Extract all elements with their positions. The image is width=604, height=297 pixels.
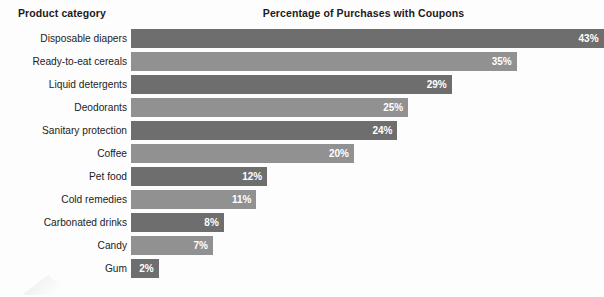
- chart-row: Liquid detergents29%: [0, 75, 604, 98]
- bar-track: 29%: [131, 75, 452, 94]
- category-label: Disposable diapers: [0, 29, 127, 48]
- bar-track: 7%: [131, 236, 213, 255]
- coupon-purchases-bar-chart: Product category Percentage of Purchases…: [0, 0, 604, 297]
- bar: 29%: [131, 75, 452, 94]
- category-label: Candy: [0, 236, 127, 255]
- bar-value-label: 12%: [242, 167, 262, 186]
- column-header-product-category: Product category: [18, 7, 106, 19]
- chart-row: Disposable diapers43%: [0, 29, 604, 52]
- bar-track: 24%: [131, 121, 397, 140]
- chart-header: Product category Percentage of Purchases…: [0, 7, 604, 27]
- bar-value-label: 11%: [232, 190, 251, 209]
- bar-track: 43%: [131, 29, 604, 48]
- bar-value-label: 43%: [579, 29, 599, 48]
- category-label: Carbonated drinks: [0, 213, 127, 232]
- bar-track: 25%: [131, 98, 408, 117]
- category-label: Deodorants: [0, 98, 127, 117]
- chart-row: Deodorants25%: [0, 98, 604, 121]
- bar-value-label: 2%: [139, 259, 153, 278]
- bar-value-label: 7%: [193, 236, 207, 255]
- bar: 12%: [131, 167, 267, 186]
- bar: 7%: [131, 236, 213, 255]
- chart-title: Percentage of Purchases with Coupons: [131, 7, 596, 19]
- chart-row: Sanitary protection24%: [0, 121, 604, 144]
- category-label: Liquid detergents: [0, 75, 127, 94]
- category-label: Sanitary protection: [0, 121, 127, 140]
- category-label: Cold remedies: [0, 190, 127, 209]
- category-label: Pet food: [0, 167, 127, 186]
- bar-track: 20%: [131, 144, 354, 163]
- chart-row: Pet food12%: [0, 167, 604, 190]
- bar: 8%: [131, 213, 224, 232]
- category-label: Gum: [0, 259, 127, 278]
- bar-value-label: 29%: [427, 75, 447, 94]
- bar-value-label: 24%: [372, 121, 392, 140]
- chart-row: Coffee20%: [0, 144, 604, 167]
- bar-track: 11%: [131, 190, 256, 209]
- bar-track: 12%: [131, 167, 267, 186]
- category-label: Ready-to-eat cereals: [0, 52, 127, 71]
- bar: 24%: [131, 121, 397, 140]
- bar-value-label: 25%: [383, 98, 403, 117]
- bar-value-label: 35%: [492, 52, 512, 71]
- chart-plot-area: Disposable diapers43%Ready-to-eat cereal…: [0, 29, 604, 291]
- bar: 35%: [131, 52, 517, 71]
- chart-row: Ready-to-eat cereals35%: [0, 52, 604, 75]
- bar: 43%: [131, 29, 604, 48]
- chart-row: Candy7%: [0, 236, 604, 259]
- chart-row: Carbonated drinks8%: [0, 213, 604, 236]
- bar: 11%: [131, 190, 256, 209]
- bar: 2%: [131, 259, 159, 278]
- chart-row: Gum2%: [0, 259, 604, 282]
- bar-value-label: 20%: [329, 144, 349, 163]
- bar-track: 8%: [131, 213, 224, 232]
- bar: 25%: [131, 98, 408, 117]
- bar: 20%: [131, 144, 354, 163]
- bar-track: 2%: [131, 259, 159, 278]
- bar-value-label: 8%: [204, 213, 218, 232]
- chart-row: Cold remedies11%: [0, 190, 604, 213]
- bar-track: 35%: [131, 52, 517, 71]
- category-label: Coffee: [0, 144, 127, 163]
